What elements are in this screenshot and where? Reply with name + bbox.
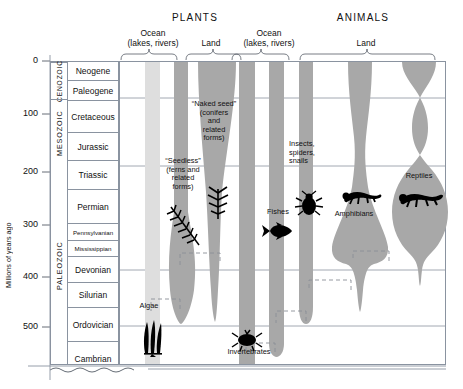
y-tick-400: 400 bbox=[12, 271, 38, 281]
label-insects: Insects, spiders, snails bbox=[289, 140, 335, 166]
reptile-silhouette bbox=[396, 190, 446, 210]
label-seedless-l4: forms) bbox=[173, 182, 194, 191]
period-ordovician: Ordovician bbox=[68, 308, 118, 342]
period-silurian: Silurian bbox=[68, 283, 118, 308]
bracket-line1: Land bbox=[202, 38, 221, 48]
bracket-label-plants-ocean: Ocean (lakes, rivers) bbox=[113, 29, 193, 48]
period-triassic: Triassic bbox=[68, 161, 118, 190]
y-tick-200: 200 bbox=[12, 166, 38, 176]
insect-silhouette bbox=[295, 193, 323, 217]
period-permian: Permian bbox=[68, 190, 118, 224]
period-neogene: Neogene bbox=[68, 62, 118, 81]
bracket-line2: (lakes, rivers) bbox=[127, 38, 178, 48]
period-mississippian: Mississippian bbox=[68, 241, 118, 257]
amphibian-silhouette bbox=[341, 188, 383, 208]
period-devonian: Devonian bbox=[68, 257, 118, 283]
fish-silhouette bbox=[262, 222, 296, 240]
label-insects-l3: snails bbox=[289, 156, 308, 165]
fern-silhouette bbox=[167, 205, 207, 249]
bottom-frame-line bbox=[28, 364, 448, 370]
algae-silhouette bbox=[140, 317, 166, 357]
label-seedless: “Seedless” (ferns and related forms) bbox=[152, 157, 214, 191]
label-algae: Algae bbox=[132, 302, 166, 311]
y-tick-100: 100 bbox=[12, 108, 38, 118]
plants-header: PLANTS bbox=[150, 12, 240, 23]
label-reptiles: Reptiles bbox=[396, 172, 442, 181]
bracket-line1: Ocean bbox=[256, 28, 281, 38]
period-paleogene: Paleogene bbox=[68, 81, 118, 101]
y-tick-0: 0 bbox=[12, 55, 38, 65]
y-tick-300: 300 bbox=[12, 219, 38, 229]
period-jurassic: Jurassic bbox=[68, 133, 118, 161]
y-axis-title: Millions of years ago bbox=[2, 200, 14, 310]
label-nakedseed-l5: forms) bbox=[204, 133, 225, 142]
left-axis-line bbox=[48, 55, 54, 385]
bracket-line1: Ocean bbox=[140, 28, 165, 38]
label-invertebrates: Invertebrates bbox=[216, 348, 282, 357]
period-cretaceous: Cretaceous bbox=[68, 101, 118, 133]
label-amphibians: Amphibians bbox=[325, 210, 383, 219]
bracket-label-animals-ocean: Ocean (lakes, rivers) bbox=[228, 29, 310, 48]
bracket-label-animals-land: Land bbox=[340, 39, 392, 49]
period-column: Neogene Paleogene Cretaceous Jurassic Tr… bbox=[67, 61, 119, 365]
label-naked-seed: “Naked seed” (conifers and related forms… bbox=[181, 100, 247, 143]
animals-header: ANIMALS bbox=[318, 12, 408, 23]
period-pennsylvanian: Pennsylvanian bbox=[68, 224, 118, 241]
bracket-line1: Land bbox=[357, 38, 376, 48]
label-fishes: Fishes bbox=[258, 208, 298, 217]
y-tick-500: 500 bbox=[12, 321, 38, 331]
bracket-line2: (lakes, rivers) bbox=[243, 38, 294, 48]
